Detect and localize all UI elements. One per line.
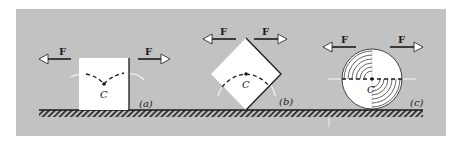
center-label: C <box>367 84 375 95</box>
figure: C (a) F F C (b) F F <box>0 0 462 143</box>
panel-label-c: (c) <box>410 97 424 108</box>
center-of-mass-dot <box>370 77 374 81</box>
force-label: F <box>341 34 348 45</box>
force-label: F <box>145 46 152 57</box>
center-label: C <box>242 79 250 90</box>
panel-label-b: (b) <box>279 96 293 107</box>
panel-label-a: (a) <box>139 98 153 109</box>
center-of-mass-dot <box>244 72 248 76</box>
center-of-mass-dot <box>102 82 106 86</box>
force-label: F <box>262 26 269 37</box>
center-label: C <box>100 89 108 100</box>
force-label: F <box>59 46 66 57</box>
force-label: F <box>220 26 227 37</box>
force-label: F <box>398 34 405 45</box>
